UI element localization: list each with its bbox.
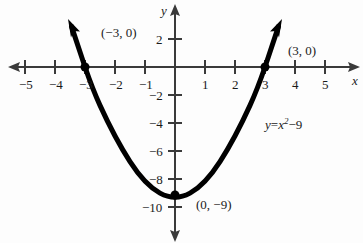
equation-label: y=x2−9: [265, 118, 302, 131]
y-tick-label--4: −4: [149, 117, 163, 130]
point-label-vertex: (0, −9): [196, 198, 232, 211]
equation-constant: 9: [296, 117, 303, 132]
x-tick-label-4: 4: [292, 78, 299, 91]
point-label-three-zero: (3, 0): [288, 44, 316, 57]
x-tick-label--3: −3: [79, 78, 93, 91]
point-label-negative-three-zero: (−3, 0): [101, 26, 137, 39]
vertex-marker: [171, 191, 180, 200]
y-tick-label--2: −2: [149, 89, 163, 102]
x-tick-label--5: −5: [19, 78, 33, 91]
y-tick-label--10: −10: [142, 201, 162, 214]
graph-figure: −5 −4 −3 −2 −1 1 2 3 4 5 2 −2 −4 −6 −8 −…: [0, 0, 363, 243]
coordinate-plane-svg: [0, 0, 363, 243]
root-marker-negative-three: [81, 63, 90, 72]
x-tick-label-2: 2: [232, 78, 239, 91]
y-tick-label--6: −6: [149, 145, 163, 158]
x-tick-label--4: −4: [49, 78, 63, 91]
y-axis-label: y: [161, 4, 167, 17]
x-tick-label-3: 3: [262, 78, 269, 91]
root-marker-positive-three: [261, 63, 270, 72]
x-axis-label: x: [352, 74, 358, 87]
equation-minus: −: [288, 117, 295, 132]
x-tick-label--2: −2: [109, 78, 123, 91]
x-tick-label-1: 1: [202, 78, 209, 91]
y-tick-label-2: 2: [156, 33, 163, 46]
y-tick-label--8: −8: [149, 173, 163, 186]
x-tick-label-5: 5: [322, 78, 329, 91]
